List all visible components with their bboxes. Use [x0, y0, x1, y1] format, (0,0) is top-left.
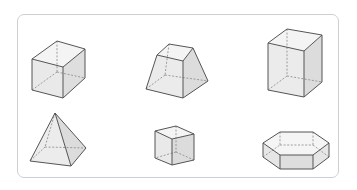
- square-frustum-shape: [146, 44, 208, 98]
- square-pyramid-shape: [30, 113, 86, 166]
- rectangular-prism-shape: [268, 29, 322, 97]
- small-cube-shape: [155, 126, 194, 165]
- cube-shape: [32, 41, 85, 98]
- hexagonal-prism-shape: [263, 132, 329, 169]
- shapes-canvas: [0, 0, 357, 190]
